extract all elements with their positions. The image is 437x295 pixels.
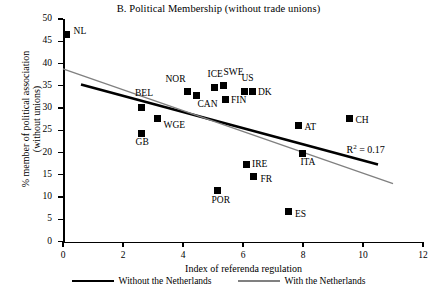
data-point-marker	[184, 88, 191, 95]
data-point-marker	[241, 88, 248, 95]
data-point-label: ITA	[300, 158, 315, 168]
r-squared-annotation: R2 = 0.17	[347, 143, 385, 155]
legend-line-black-icon	[72, 280, 114, 283]
data-point-label: BEL	[135, 89, 153, 99]
legend-label-without-netherlands: Without the Netherlands	[119, 276, 212, 286]
legend-item-with-netherlands: With the Netherlands	[238, 276, 366, 286]
data-point-marker	[295, 122, 302, 129]
data-point-marker	[214, 187, 221, 194]
legend-item-without-netherlands: Without the Netherlands	[72, 276, 212, 286]
data-point-marker	[249, 88, 256, 95]
data-point-marker	[220, 82, 227, 89]
data-point-marker	[250, 173, 257, 180]
data-point-label: WGE	[164, 121, 186, 131]
data-point-marker	[222, 96, 229, 103]
legend-line-gray-icon	[238, 280, 280, 281]
data-point-label: DK	[258, 88, 272, 98]
data-point-label: CH	[356, 116, 369, 126]
legend-label-with-netherlands: With the Netherlands	[285, 276, 366, 286]
data-point-label: NOR	[166, 75, 186, 85]
data-point-label: CAN	[198, 100, 218, 110]
data-point-marker	[63, 31, 70, 38]
data-point-marker	[243, 161, 250, 168]
data-point-marker	[346, 115, 353, 122]
data-point-label: FIN	[231, 96, 246, 106]
data-point-marker	[299, 150, 306, 157]
data-point-marker	[138, 104, 145, 111]
data-point-label: GB	[136, 138, 149, 148]
data-point-label: FR	[261, 175, 273, 185]
r2-value: = 0.17	[359, 144, 385, 155]
chart-container: B. Political Membership (without trade u…	[0, 0, 437, 295]
data-point-label: IRE	[252, 160, 267, 170]
data-point-marker	[211, 84, 218, 91]
data-point-label: ES	[295, 210, 306, 220]
trend-line-with-netherlands	[63, 69, 393, 184]
data-point-label: NL	[74, 27, 87, 37]
data-point-label: US	[242, 74, 254, 84]
data-point-label: ICE	[208, 70, 223, 80]
trend-line-without-netherlands	[81, 84, 378, 164]
data-point-marker	[154, 115, 161, 122]
data-point-marker	[285, 208, 292, 215]
chart-legend: Without the Netherlands With the Netherl…	[0, 276, 437, 286]
data-point-label: POR	[212, 196, 230, 206]
r2-exponent: 2	[353, 143, 357, 151]
data-point-label: AT	[305, 123, 317, 133]
